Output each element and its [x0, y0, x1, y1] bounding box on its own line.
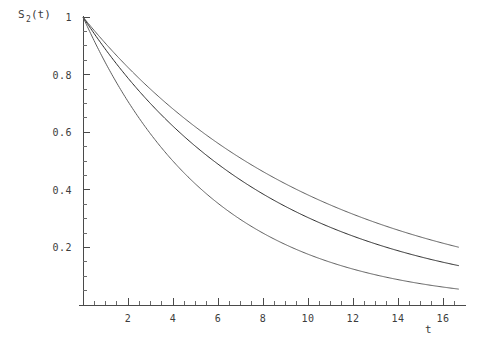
curve-lower: [83, 17, 459, 289]
y-tick-label: 0.8: [52, 70, 72, 81]
y-tick-label: 0.2: [52, 242, 72, 253]
y-axis-label-base: S: [18, 8, 25, 21]
y-axis-minor-ticks: [83, 31, 87, 290]
x-axis-tick-labels: 246810121416: [125, 313, 450, 324]
x-tick-label: 8: [260, 313, 267, 324]
x-tick-label: 10: [301, 313, 314, 324]
survival-function-plot: S 2 (t) t 0.20.40.60.81 246810121416: [0, 0, 479, 348]
y-axis-major-ticks: [83, 17, 90, 247]
x-tick-label: 16: [436, 313, 449, 324]
x-tick-label: 4: [170, 313, 177, 324]
y-tick-label: 0.6: [52, 127, 72, 138]
x-tick-label: 6: [215, 313, 222, 324]
x-axis-minor-ticks: [94, 301, 454, 305]
chart-page: S 2 (t) t 0.20.40.60.81 246810121416: [0, 0, 479, 348]
y-axis-tick-labels: 0.20.40.60.81: [52, 12, 72, 253]
curve-upper: [83, 17, 459, 247]
curve-middle: [83, 17, 459, 266]
x-tick-label: 14: [391, 313, 404, 324]
x-axis-label: t: [425, 323, 432, 336]
y-tick-label: 1: [65, 12, 72, 23]
x-axis-major-ticks: [79, 298, 443, 305]
y-axis-label-tail: (t): [31, 8, 51, 21]
x-tick-label: 2: [125, 313, 132, 324]
y-tick-label: 0.4: [52, 185, 72, 196]
x-tick-label: 12: [346, 313, 359, 324]
